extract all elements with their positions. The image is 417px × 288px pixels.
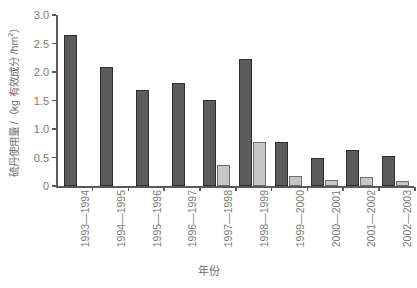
y-tick-label: 1.5 (34, 95, 49, 107)
x-tick-label: 1997—1998 (222, 190, 234, 247)
y-tick-mark (52, 185, 56, 187)
y-axis-tick-labels: 00.51.01.52.02.53.0 (26, 0, 53, 200)
bar-primary (382, 156, 395, 186)
x-tick-label: 2002—2003 (401, 190, 413, 247)
y-tick-mark (52, 14, 56, 16)
x-tick-label: 1994—1995 (115, 190, 127, 247)
y-tick-mark (52, 71, 56, 73)
x-tick-label: 1993—1994 (79, 190, 91, 247)
bar-primary (64, 35, 77, 186)
bar-primary (136, 90, 149, 186)
bar-secondary (289, 176, 302, 186)
y-tick-mark (52, 43, 56, 45)
bar-secondary (217, 165, 230, 186)
bar-secondary (253, 142, 266, 186)
y-tick-label: 1.0 (34, 123, 49, 135)
y-axis-title-container: 硫丹使用量 /（kg 有效成分 /hm2） (0, 0, 26, 200)
x-tick-label: 2001—2002 (365, 190, 377, 247)
plot-area (56, 15, 414, 187)
x-tick-label: 1999—2000 (294, 190, 306, 247)
bar-primary (346, 150, 359, 186)
chart-figure: 硫丹使用量 /（kg 有效成分 /hm2） 00.51.01.52.02.53.… (0, 0, 417, 288)
bar-secondary (396, 181, 409, 186)
y-tick-label: 0 (43, 180, 49, 192)
y-axis-title-superscript: 2 (7, 33, 14, 37)
y-axis-line (56, 15, 58, 187)
x-tick-mark (414, 187, 416, 191)
y-axis-title: 硫丹使用量 /（kg 有效成分 /hm2） (6, 23, 21, 177)
x-tick-label: 1996—1997 (186, 190, 198, 247)
bar-primary (203, 100, 216, 186)
bar-primary (311, 158, 324, 187)
bar-primary (172, 83, 185, 186)
x-axis-title: 年份 (0, 262, 417, 278)
bar-secondary (360, 177, 373, 186)
y-tick-mark (52, 157, 56, 159)
y-axis-title-tail: ） (8, 23, 20, 33)
bar-primary (275, 142, 288, 186)
bar-secondary (325, 180, 338, 186)
y-axis-title-main: 硫丹使用量 /（kg 有效成分 /hm (8, 37, 20, 177)
bar-primary (100, 67, 113, 186)
y-tick-label: 0.5 (34, 152, 49, 164)
y-tick-mark (52, 100, 56, 102)
x-tick-label: 2000—2001 (330, 190, 342, 247)
y-tick-label: 2.0 (34, 66, 49, 78)
x-tick-label: 1998—1999 (258, 190, 270, 247)
y-tick-label: 3.0 (34, 9, 49, 21)
x-tick-label: 1995—1996 (151, 190, 163, 247)
x-axis-tick-labels: 1993—19941994—19951995—19961996—19971997… (56, 190, 414, 256)
bar-primary (239, 59, 252, 186)
y-tick-mark (52, 128, 56, 130)
y-tick-label: 2.5 (34, 38, 49, 50)
